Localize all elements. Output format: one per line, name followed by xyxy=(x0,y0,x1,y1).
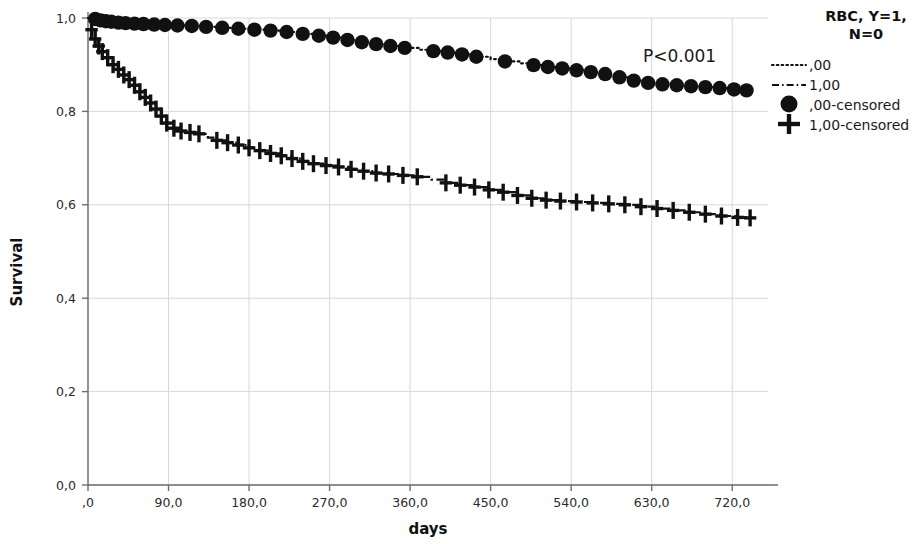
x-axis-title: days xyxy=(408,520,447,538)
censor-circle-marker xyxy=(426,44,440,58)
censor-circle-marker xyxy=(627,73,641,87)
x-axis-tick-label: 90,0 xyxy=(155,495,183,510)
legend-label-group-0: ,00 xyxy=(809,57,831,73)
x-axis-tick-label: 630,0 xyxy=(634,495,670,510)
censor-circle-marker xyxy=(555,61,569,75)
censor-circle-marker xyxy=(684,79,698,93)
x-axis-tick-label: 270,0 xyxy=(312,495,348,510)
plot-background xyxy=(0,0,922,544)
censor-circle-marker xyxy=(296,27,310,41)
censor-circle-marker xyxy=(215,21,229,35)
x-axis-tick-label: 180,0 xyxy=(231,495,267,510)
censor-circle-marker xyxy=(383,39,397,53)
pvalue-annotation: P<0.001 xyxy=(643,46,716,66)
censor-circle-marker xyxy=(199,20,213,34)
y-axis-tick-label: 0,6 xyxy=(56,197,76,212)
censor-circle-marker xyxy=(231,22,245,36)
censor-circle-marker xyxy=(727,82,741,96)
censor-circle-marker xyxy=(498,54,512,68)
censor-circle-marker xyxy=(612,70,626,84)
x-axis-tick-label: 450,0 xyxy=(473,495,509,510)
censor-circle-marker xyxy=(185,19,199,33)
censor-circle-marker xyxy=(355,35,369,49)
censor-circle-marker xyxy=(312,29,326,43)
y-axis-tick-label: 0,8 xyxy=(56,104,76,119)
censor-circle-marker xyxy=(526,58,540,72)
y-axis-tick-label: 0,0 xyxy=(56,478,76,493)
censor-circle-marker xyxy=(455,47,469,61)
censor-circle-marker xyxy=(326,30,340,44)
x-axis-tick-label: 360,0 xyxy=(392,495,428,510)
censor-circle-marker xyxy=(541,60,555,74)
censor-circle-marker xyxy=(641,76,655,90)
y-axis-title: Survival xyxy=(8,238,26,307)
censor-circle-marker xyxy=(569,63,583,77)
censor-circle-marker xyxy=(598,67,612,81)
censor-circle-marker xyxy=(584,65,598,79)
censor-circle-marker xyxy=(655,77,669,91)
censor-circle-marker xyxy=(263,23,277,37)
censor-circle-marker xyxy=(158,18,172,32)
censor-circle-marker xyxy=(712,81,726,95)
legend-label-censored-0: ,00-censored xyxy=(809,97,900,113)
legend-label-censored-1: 1,00-censored xyxy=(809,117,909,133)
x-axis-tick-label: ,0 xyxy=(82,495,94,510)
legend-title-line-1: RBC, Y=1, xyxy=(825,8,907,24)
censor-circle-marker xyxy=(279,25,293,39)
censor-circle-marker xyxy=(698,80,712,94)
filled-circle-icon xyxy=(781,96,798,113)
survival-chart-figure: 0,00,20,40,60,81,0 ,090,0180,0270,0360,0… xyxy=(0,0,922,544)
censor-circle-marker xyxy=(340,33,354,47)
legend-title-line-2: N=0 xyxy=(849,26,883,42)
censor-circle-marker xyxy=(440,45,454,59)
censor-circle-marker xyxy=(398,41,412,55)
censor-circle-marker xyxy=(670,78,684,92)
x-axis-tick-labels: ,090,0180,0270,0360,0450,0540,0630,0720,… xyxy=(82,495,750,510)
x-axis-tick-label: 540,0 xyxy=(553,495,589,510)
censor-circle-marker xyxy=(369,37,383,51)
y-axis-tick-label: 1,0 xyxy=(56,11,76,26)
censor-circle-marker xyxy=(739,83,753,97)
censor-circle-marker xyxy=(247,22,261,36)
censor-circle-marker xyxy=(469,50,483,64)
x-axis-tick-label: 720,0 xyxy=(714,495,750,510)
y-axis-tick-label: 0,4 xyxy=(56,291,76,306)
y-axis-tick-label: 0,2 xyxy=(56,384,76,399)
kaplan-meier-plot: 0,00,20,40,60,81,0 ,090,0180,0270,0360,0… xyxy=(0,0,922,544)
censor-circle-marker xyxy=(170,18,184,32)
legend-label-group-1: 1,00 xyxy=(809,77,840,93)
